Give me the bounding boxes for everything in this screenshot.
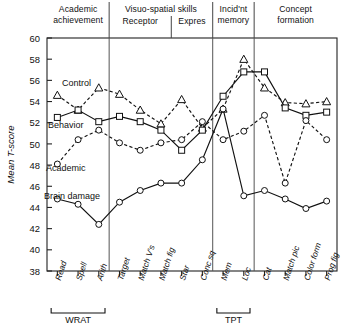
data-point-marker-square [282, 105, 288, 111]
plot-frame [47, 38, 337, 271]
data-point-marker-circle [262, 112, 268, 118]
y-axis-tick-label: 60 [30, 33, 40, 44]
data-point-marker-triangle [240, 55, 248, 62]
x-axis-tick-label: Read [53, 259, 69, 281]
group-header-label: Academic [59, 4, 98, 14]
series-label-academic: Academic [46, 163, 86, 173]
data-point-marker-triangle [95, 84, 103, 91]
series-label-behavior: Behavior [48, 120, 84, 130]
y-axis-title: Mean T-score [5, 125, 16, 183]
y-axis-tick-label: 50 [30, 139, 40, 150]
data-point-marker-circle [303, 118, 309, 124]
y-axis-tick-label: 40 [30, 244, 40, 255]
data-point-marker-square [262, 69, 268, 75]
data-point-marker-circle [199, 157, 205, 163]
group-header-label: Visuo-spatial skills [125, 4, 197, 14]
data-point-marker-circle [117, 140, 123, 146]
x-axis-tick-label: Prog fig [322, 251, 341, 282]
data-point-marker-circle [96, 127, 102, 133]
data-point-marker-circle [137, 147, 143, 153]
y-axis-tick-label: 44 [30, 202, 40, 213]
data-point-marker-square [324, 109, 330, 115]
x-axis-bracket-label: WRAT [65, 315, 91, 325]
x-axis-tick-label: Match fig [157, 246, 177, 282]
group-header-label: Incid'nt [220, 4, 248, 14]
y-axis-tick-label: 46 [30, 181, 40, 192]
series-line-academic [57, 115, 326, 183]
x-axis-tick-label: Color form [302, 241, 324, 281]
data-point-marker-circle [324, 198, 330, 204]
data-point-marker-triangle [323, 98, 331, 105]
data-point-marker-square [117, 113, 123, 119]
data-point-marker-circle [199, 119, 205, 125]
data-point-marker-circle [303, 206, 309, 212]
group-header-label: memory [218, 15, 250, 25]
data-point-marker-circle [117, 199, 123, 205]
x-axis-bracket-label: TPT [225, 315, 243, 325]
series-line-brain-damage [57, 109, 326, 224]
data-point-marker-circle [282, 180, 288, 186]
data-point-marker-circle [96, 221, 102, 227]
data-point-marker-square [158, 127, 164, 133]
data-point-marker-circle [241, 193, 247, 199]
x-axis-tick-label: Cat [260, 265, 274, 281]
series-label-control: Control [62, 78, 91, 88]
data-point-marker-circle [179, 180, 185, 186]
subgroup-header-label: Receptor [122, 16, 158, 26]
data-point-marker-triangle [178, 95, 186, 102]
data-point-marker-square [75, 107, 81, 113]
y-axis-tick-label: 58 [30, 54, 40, 65]
data-point-marker-square [199, 127, 205, 133]
data-point-marker-circle [75, 201, 81, 207]
x-axis-tick-label: Target [115, 256, 132, 282]
series-label-brain-damage: Brain damage [44, 191, 100, 201]
y-axis-tick-label: 38 [30, 266, 40, 277]
group-header-label: achievement [53, 15, 103, 25]
line-chart-canvas: 384042444648505254565860Mean T-scoreRead… [0, 0, 353, 336]
x-axis-tick-label: Star [177, 263, 192, 282]
data-point-marker-circle [158, 180, 164, 186]
data-point-marker-circle [137, 188, 143, 194]
data-point-marker-triangle [157, 120, 165, 127]
data-point-marker-square [220, 93, 226, 99]
data-point-marker-circle [220, 106, 226, 112]
data-point-marker-square [179, 147, 185, 153]
data-point-marker-circle [179, 137, 185, 143]
data-point-marker-triangle [302, 100, 310, 107]
y-axis-tick-label: 54 [30, 96, 40, 107]
x-axis-tick-label: Loc [239, 265, 253, 282]
x-axis-tick-label: Match pic [281, 244, 302, 282]
y-axis-tick-label: 56 [30, 75, 40, 86]
x-axis-tick-label: Conc sq [198, 249, 217, 282]
data-point-marker-triangle [53, 91, 61, 98]
data-point-marker-circle [324, 137, 330, 143]
data-point-marker-circle [262, 188, 268, 194]
chart-figure: 384042444648505254565860Mean T-scoreRead… [0, 0, 353, 336]
group-header-label: Concept [279, 4, 312, 14]
data-point-marker-square [241, 69, 247, 75]
y-axis-tick-label: 52 [30, 117, 40, 128]
data-point-marker-circle [158, 140, 164, 146]
data-point-marker-square [137, 119, 143, 125]
data-point-marker-square [96, 119, 102, 125]
data-point-marker-circle [220, 137, 226, 143]
series-line-control [57, 59, 326, 128]
subgroup-header-label: Expres [178, 16, 205, 26]
x-axis-bracket [217, 308, 250, 313]
x-axis-tick-label: Arith [94, 262, 109, 283]
y-axis-tick-label: 48 [30, 160, 40, 171]
data-point-marker-circle [282, 196, 288, 202]
data-point-marker-circle [241, 128, 247, 134]
y-axis-tick-label: 42 [30, 223, 40, 234]
data-point-marker-triangle [136, 106, 144, 113]
x-axis-tick-label: Match V's [136, 243, 157, 282]
data-point-marker-circle [75, 137, 81, 143]
x-axis-bracket [51, 308, 105, 313]
group-header-label: formation [277, 15, 314, 25]
